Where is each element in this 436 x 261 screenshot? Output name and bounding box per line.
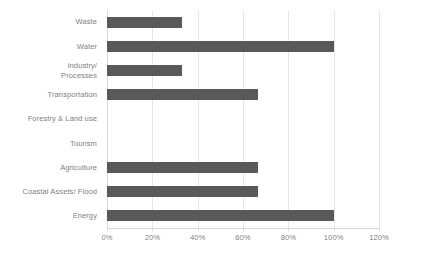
x-tick-label: 120% — [369, 233, 389, 242]
bar — [107, 41, 334, 52]
x-axis-tick-labels: 0%20%40%60%80%100%120% — [107, 233, 379, 247]
tick-mark — [379, 228, 380, 231]
plot-area — [107, 10, 379, 228]
bar — [107, 186, 258, 197]
tick-mark — [198, 228, 199, 231]
gridline — [379, 10, 380, 228]
bar-row — [107, 107, 379, 131]
x-tick-label: 40% — [190, 233, 205, 242]
category-label: Coastal Assets/ Flood — [0, 180, 101, 204]
x-tick-label: 0% — [101, 233, 112, 242]
bar-row — [107, 180, 379, 204]
bar-series — [107, 10, 379, 228]
category-label: Tourism — [0, 131, 101, 155]
category-label: Industry/ Processes — [0, 58, 101, 82]
x-tick-label: 20% — [145, 233, 160, 242]
bar-chart: WasteWaterIndustry/ ProcessesTransportat… — [0, 0, 436, 261]
x-axis-tick-marks — [107, 228, 379, 231]
category-label: Transportation — [0, 83, 101, 107]
tick-mark — [334, 228, 335, 231]
bar — [107, 89, 258, 100]
bar-row — [107, 155, 379, 179]
x-tick-label: 100% — [324, 233, 344, 242]
category-axis-labels: WasteWaterIndustry/ ProcessesTransportat… — [0, 10, 101, 228]
category-label: Energy — [0, 204, 101, 228]
bar — [107, 162, 258, 173]
bar-row — [107, 58, 379, 82]
category-label: Agriculture — [0, 155, 101, 179]
category-label: Forestry & Land use — [0, 107, 101, 131]
bar-row — [107, 34, 379, 58]
x-tick-label: 60% — [235, 233, 250, 242]
bar-row — [107, 131, 379, 155]
bar-row — [107, 10, 379, 34]
bar-row — [107, 83, 379, 107]
x-tick-label: 80% — [281, 233, 296, 242]
tick-mark — [152, 228, 153, 231]
bar-row — [107, 204, 379, 228]
tick-mark — [288, 228, 289, 231]
category-label: Water — [0, 34, 101, 58]
tick-mark — [107, 228, 108, 231]
category-label: Waste — [0, 10, 101, 34]
bar — [107, 65, 182, 76]
bar — [107, 17, 182, 28]
tick-mark — [243, 228, 244, 231]
bar — [107, 210, 334, 221]
